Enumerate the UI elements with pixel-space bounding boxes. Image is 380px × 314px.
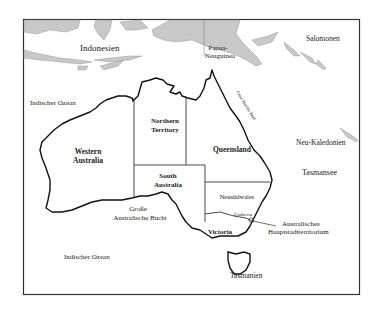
label-tasmanien: Tasmanien xyxy=(230,271,263,280)
label-western-australia-1: Western xyxy=(75,147,102,156)
label-grosse-bucht-2: Australische Bucht xyxy=(113,214,167,222)
label-indian-ocean-south: Indischer Ozean xyxy=(64,253,110,261)
label-indonesia: Indonesien xyxy=(80,43,120,53)
label-tasmansee: Tasmansee xyxy=(302,168,337,177)
label-queensland: Queensland xyxy=(213,145,252,154)
label-png-1: Papua- xyxy=(208,44,228,52)
label-salomonen: Salomonen xyxy=(306,34,340,43)
australia-map: Indonesien Papua- Neuguinea Salomonen In… xyxy=(0,0,380,314)
label-indian-ocean-north: Indischer Ozean xyxy=(30,99,76,107)
label-northern-territory-1: Northern xyxy=(151,117,179,125)
label-act-1: Australisches xyxy=(282,220,320,228)
label-south-australia-1: South xyxy=(159,172,177,180)
label-neu-kaledonien: Neu-Kaledonien xyxy=(296,138,346,147)
label-png-2: Neuguinea xyxy=(205,52,236,60)
label-canberra: Canberra xyxy=(234,212,253,217)
label-neusuedwales: Neusüdwales xyxy=(220,193,255,200)
label-northern-territory-2: Territory xyxy=(151,126,179,134)
label-grosse-bucht-1: Große xyxy=(129,205,147,213)
label-act-2: Hauptstadtterritorium xyxy=(268,228,329,236)
label-south-australia-2: Australia xyxy=(154,181,183,189)
label-victoria: Victoria xyxy=(208,228,233,236)
small-island-1 xyxy=(78,66,88,70)
label-western-australia-2: Australia xyxy=(73,156,103,165)
